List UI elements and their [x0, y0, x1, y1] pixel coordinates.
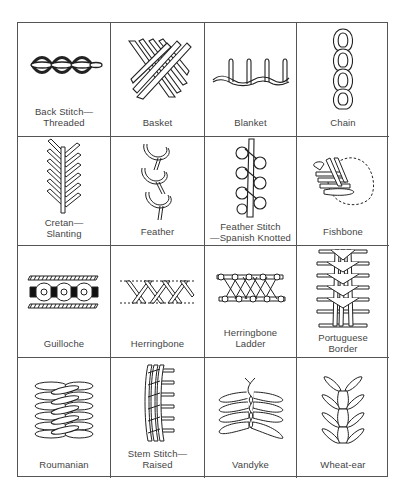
stitch-label: Chain	[330, 117, 355, 136]
stitch-label: Guilloche	[44, 338, 85, 357]
stitch-cell-chain: Chain	[297, 23, 389, 137]
stitch-cell-cretan-slanting: Cretan— Slanting	[18, 137, 111, 246]
chain-stitch-icon	[328, 25, 358, 115]
stitch-cell-fishbone: Fishbone	[297, 137, 389, 246]
stitch-label: Fishbone	[323, 226, 363, 245]
stitch-cell-portuguese-border: Portuguese Border	[297, 246, 389, 358]
stitch-cell-herringbone: Herringbone	[111, 246, 205, 358]
herringbone-ladder-stitch-icon	[213, 267, 289, 307]
wheat-ear-stitch-icon	[318, 371, 368, 447]
feather-spanish-knotted-stitch-icon	[231, 137, 271, 221]
herringbone-stitch-icon	[118, 277, 198, 307]
stitch-cell-feather-spanish-knotted: Feather Stitch —Spanish Knotted	[205, 137, 297, 246]
stitch-cell-feather: Feather	[111, 137, 205, 246]
stitch-cell-wheat-ear: Wheat-ear	[297, 358, 389, 478]
stitch-label: Herringbone Ladder	[224, 327, 277, 357]
stitch-label: Blanket	[234, 117, 266, 136]
blanket-stitch-icon	[209, 50, 293, 90]
portuguese-border-stitch-icon	[313, 246, 373, 332]
stitch-cell-blanket: Blanket	[205, 23, 297, 137]
stitch-label: Cretan— Slanting	[45, 217, 84, 247]
cretan-slanting-stitch-icon	[44, 137, 84, 217]
back-stitch-threaded-icon	[24, 45, 104, 85]
stitch-label: Vandyke	[232, 459, 269, 478]
roumanian-stitch-icon	[31, 378, 97, 440]
stitch-cell-herringbone-ladder: Herringbone Ladder	[205, 246, 297, 358]
stitch-label: Herringbone	[131, 338, 184, 357]
stitch-cell-stem-stitch-raised: Stem Stitch— Raised	[111, 358, 205, 478]
basket-stitch-icon	[123, 35, 193, 105]
stitch-cell-roumanian: Roumanian	[18, 358, 111, 478]
stitch-cell-guilloche: Guilloche	[18, 246, 111, 358]
vandyke-stitch-icon	[215, 374, 287, 444]
fishbone-stitch-icon	[308, 152, 378, 212]
stitch-label: Stem Stitch— Raised	[128, 448, 187, 478]
stem-stitch-raised-icon	[138, 361, 178, 445]
stitch-label: Back Stitch— Threaded	[35, 106, 93, 136]
stitch-label: Feather	[141, 226, 174, 245]
stitch-label: Wheat-ear	[320, 459, 365, 478]
stitch-grid: Back Stitch— Threaded Basket	[17, 22, 388, 477]
stitch-cell-basket: Basket	[111, 23, 205, 137]
stitch-label: Basket	[143, 117, 173, 136]
stitch-cell-back-stitch-threaded: Back Stitch— Threaded	[18, 23, 111, 137]
stitch-cell-vandyke: Vandyke	[205, 358, 297, 478]
feather-stitch-icon	[138, 140, 178, 224]
guilloche-stitch-icon	[24, 270, 104, 314]
stitch-label: Roumanian	[39, 459, 89, 478]
